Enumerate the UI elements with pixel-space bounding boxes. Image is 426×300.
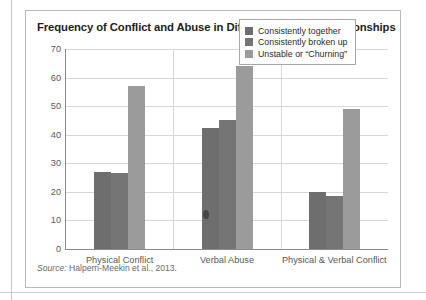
chart-card: Frequency of Conflict and Abuse in Diffe… (25, 10, 401, 288)
scan-artifact-speck (203, 210, 209, 219)
bar (94, 172, 111, 249)
legend-swatch (245, 27, 253, 35)
source-label: Source: (37, 263, 67, 273)
legend-label: Unstable or “Churning” (258, 49, 347, 59)
bar (128, 86, 145, 249)
page-margin-rule-bottom (0, 292, 426, 293)
legend-item: Unstable or “Churning” (245, 49, 348, 59)
bar (309, 192, 326, 249)
legend-item: Consistently together (245, 26, 348, 36)
chart-legend: Consistently togetherConsistently broken… (239, 19, 356, 65)
legend-label: Consistently broken up (258, 37, 348, 47)
y-axis-tick-label: 0 (56, 244, 61, 254)
bar (111, 173, 128, 249)
legend-swatch (245, 50, 253, 58)
legend-item: Consistently broken up (245, 37, 348, 47)
legend-swatch (245, 38, 253, 46)
y-axis-tick-label: 10 (51, 215, 61, 225)
gridline-category-separator (281, 49, 282, 249)
bar (326, 196, 343, 249)
gridline-horizontal (66, 106, 388, 107)
y-axis-tick-label: 70 (51, 44, 61, 54)
source-citation: Halpern-Meekin et al., 2013. (67, 263, 177, 273)
y-axis-tick-label: 20 (51, 187, 61, 197)
y-axis-tick-label: 50 (51, 101, 61, 111)
bar (219, 120, 236, 249)
y-axis-tick-label: 30 (51, 158, 61, 168)
bar (343, 109, 360, 249)
bar (236, 66, 253, 249)
page-margin-rule-left (11, 0, 12, 300)
gridline-horizontal (66, 78, 388, 79)
x-axis-line (65, 249, 388, 250)
x-axis-tick-label: Physical & Verbal Conflict (282, 255, 387, 265)
x-axis-tick-label: Verbal Abuse (200, 255, 254, 265)
bar (202, 128, 219, 249)
y-axis-tick-label: 60 (51, 73, 61, 83)
y-axis-line (65, 49, 66, 249)
legend-label: Consistently together (258, 26, 341, 36)
plot-area: 010203040506070 Physical ConflictVerbal … (66, 49, 388, 249)
source-note: Source: Halpern-Meekin et al., 2013. (37, 263, 177, 273)
y-axis-tick-label: 40 (51, 130, 61, 140)
gridline-category-separator (173, 49, 174, 249)
